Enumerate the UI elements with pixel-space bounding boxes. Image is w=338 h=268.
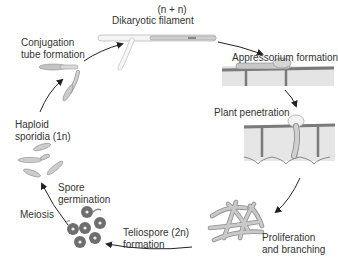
label-haploid: Haploid [15, 119, 49, 131]
arrow-haploid-to-conjugation [40, 80, 62, 112]
label-plant-penetration: Plant penetration [214, 107, 290, 119]
label-appressorium-formation: Appressorium formation [232, 52, 338, 64]
label-meiosis: Meiosis [20, 209, 54, 221]
proliferation-illustration [210, 202, 262, 240]
label-sporidia: sporidia (1n) [15, 131, 71, 143]
arrow-appressorium-to-penetration [285, 90, 296, 106]
label-conjugation: Conjugation [21, 37, 74, 49]
dikaryotic-filament-illustration [98, 35, 216, 68]
arrow-penetration-to-proliferation [276, 178, 300, 212]
label-teliospore: Teliospore (2n) [123, 227, 189, 239]
teliospores-illustration [66, 206, 106, 248]
label-and-branching: and branching [262, 244, 325, 256]
label-spore: Spore [58, 182, 85, 194]
label-teliospore-formation: formation [123, 239, 165, 251]
label-dikaryotic-filament: Dikaryotic filament [112, 15, 194, 27]
label-proliferation: Proliferation [262, 232, 315, 244]
label-germination: germination [58, 194, 110, 206]
label-tube-formation: tube formation [21, 49, 85, 61]
label-ploidy-dikaryotic: (n + n) [147, 4, 197, 16]
arrow-conjugation-to-dikaryotic [84, 44, 122, 61]
plant-penetration-illustration [244, 115, 335, 164]
